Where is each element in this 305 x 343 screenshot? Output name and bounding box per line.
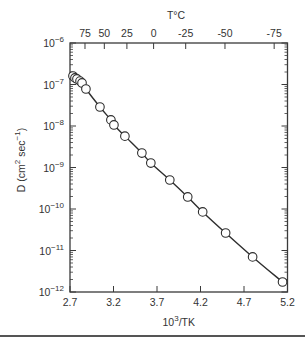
x-tick-label: 3.2	[106, 296, 121, 308]
y-tick-label: 10−10	[39, 201, 65, 215]
data-point-marker	[221, 229, 230, 238]
data-point-marker	[147, 159, 156, 168]
y-tick-label: 10−12	[39, 284, 65, 298]
data-point-marker	[183, 193, 192, 202]
chart: 2.73.23.74.24.75.27550250-25-50-7510−610…	[0, 0, 305, 343]
y-tick-label: 10−6	[43, 35, 64, 49]
data-point-marker	[82, 85, 91, 94]
top-tick-label: 25	[121, 27, 133, 39]
x-tick-label: 3.7	[150, 296, 165, 308]
y-tick-label: 10−8	[43, 118, 64, 132]
axis-titles: 103/TKT°CD (cm2 sec−1)	[13, 9, 195, 328]
top-tick-label: -75	[267, 27, 282, 39]
data-point-marker	[138, 149, 147, 158]
top-tick-label: 0	[151, 27, 157, 39]
tick-labels: 2.73.23.74.24.75.27550250-25-50-7510−610…	[39, 27, 295, 308]
top-tick-label: 50	[98, 27, 110, 39]
x-tick-label: 4.7	[237, 296, 252, 308]
data-point-marker	[198, 208, 207, 217]
data-point-marker	[165, 176, 174, 185]
x-tick-label: 2.7	[63, 296, 78, 308]
top-tick-label: 75	[79, 27, 91, 39]
x-axis-title: 103/TK	[163, 314, 195, 328]
top-axis-title: T°C	[167, 9, 186, 21]
y-tick-label: 10−11	[39, 243, 64, 257]
data-point-marker	[110, 121, 119, 130]
x-tick-label: 5.2	[280, 296, 295, 308]
top-tick-label: -50	[217, 27, 232, 39]
y-axis-title: D (cm2 sec−1)	[13, 128, 27, 192]
y-tick-label: 10−7	[43, 77, 64, 91]
data-point-marker	[248, 253, 257, 262]
page-divider	[0, 335, 305, 337]
data-point-marker	[96, 103, 105, 112]
data-point-marker	[278, 278, 287, 287]
data-points	[69, 72, 287, 287]
top-tick-label: -25	[178, 27, 193, 39]
x-tick-label: 4.2	[193, 296, 208, 308]
data-point-marker	[121, 132, 130, 141]
y-tick-label: 10−9	[43, 160, 64, 174]
